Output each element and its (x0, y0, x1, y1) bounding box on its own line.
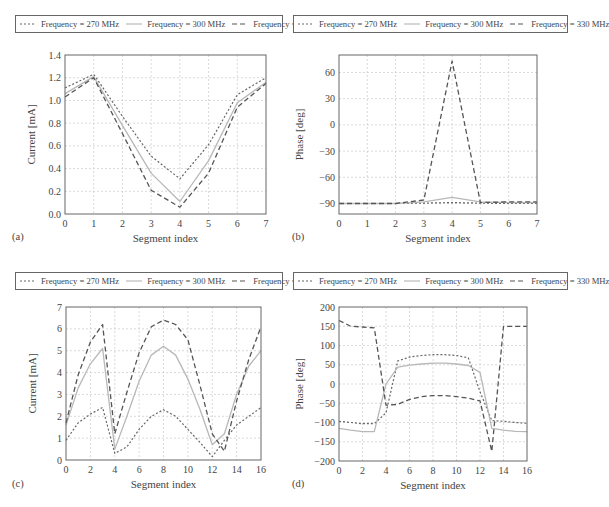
x-tick-label: 2 (120, 218, 125, 229)
x-tick-label: 12 (207, 464, 217, 475)
y-tick-label: 5 (57, 345, 62, 356)
x-tick-label: 5 (478, 218, 483, 229)
y-tick-label: 1.2 (49, 72, 62, 83)
y-axis-label: Phase [deg] (293, 358, 305, 410)
x-axis-label: Segment index (133, 232, 199, 244)
x-tick-label: 14 (499, 465, 509, 476)
x-tick-label: 10 (183, 464, 193, 475)
x-tick-label: 3 (149, 218, 154, 229)
x-tick-label: 2 (393, 218, 398, 229)
chart-a: 012345670.00.20.40.60.81.01.21.4Segment … (12, 50, 269, 245)
y-tick-label: 150 (320, 321, 335, 332)
x-axis-label: Segment index (131, 478, 197, 490)
y-tick-label: 1.4 (49, 50, 62, 61)
y-tick-label: −150 (314, 436, 335, 447)
y-tick-label: 200 (320, 302, 335, 313)
chart-d: 0246810121416−200−150−100−50050100150200… (292, 302, 532, 492)
y-tick-label: 3 (57, 389, 62, 400)
plot-frame (339, 55, 537, 214)
panel-tag: (d) (292, 478, 305, 490)
x-tick-label: 5 (206, 218, 211, 229)
chart-c: 024681012141601234567Segment indexCurren… (12, 302, 266, 491)
x-tick-label: 4 (450, 218, 455, 229)
x-tick-label: 2 (360, 465, 365, 476)
y-tick-label: 30 (325, 93, 335, 104)
x-tick-label: 0 (64, 464, 69, 475)
y-tick-label: 4 (57, 367, 62, 378)
y-tick-label: 0.2 (49, 186, 62, 197)
x-tick-label: 10 (452, 465, 462, 476)
y-tick-label: 0.6 (49, 140, 62, 151)
y-tick-label: 100 (320, 340, 335, 351)
x-tick-label: 6 (235, 218, 240, 229)
panel-tag: (c) (12, 478, 24, 490)
y-tick-label: 0 (330, 379, 335, 390)
y-tick-label: 0.4 (49, 163, 62, 174)
chart-b: 01234567−90−60−3003060Segment indexPhase… (292, 55, 540, 244)
y-tick-label: −30 (319, 146, 335, 157)
x-tick-label: 1 (91, 218, 96, 229)
y-tick-label: 0.8 (49, 118, 62, 129)
x-tick-label: 0 (63, 218, 68, 229)
y-tick-label: −100 (314, 417, 335, 428)
x-tick-label: 7 (264, 218, 269, 229)
y-tick-label: 2 (57, 411, 62, 422)
x-tick-label: 16 (256, 464, 266, 475)
y-tick-label: 6 (57, 323, 62, 334)
y-tick-label: 1 (57, 433, 62, 444)
series-line-330 (339, 61, 537, 203)
x-tick-label: 16 (522, 465, 532, 476)
x-tick-label: 3 (421, 218, 426, 229)
x-tick-label: 7 (535, 218, 540, 229)
x-tick-label: 2 (88, 464, 93, 475)
x-axis-label: Segment index (400, 479, 466, 491)
y-axis-label: Phase [deg] (293, 109, 305, 161)
y-tick-label: 0 (330, 119, 335, 130)
x-tick-label: 8 (161, 464, 166, 475)
x-tick-label: 14 (232, 464, 242, 475)
series-line-300 (66, 346, 261, 449)
x-tick-label: 6 (407, 465, 412, 476)
y-tick-label: 0.0 (49, 209, 62, 220)
y-tick-label: −200 (314, 456, 335, 467)
y-tick-label: 1.0 (49, 95, 62, 106)
x-tick-label: 6 (506, 218, 511, 229)
x-tick-label: 4 (384, 465, 389, 476)
y-tick-label: 7 (57, 302, 62, 313)
y-tick-label: 60 (325, 67, 335, 78)
y-tick-label: −50 (319, 398, 335, 409)
x-tick-label: 1 (365, 218, 370, 229)
series-line-270 (65, 74, 266, 179)
x-tick-label: 6 (137, 464, 142, 475)
y-tick-label: 0 (57, 455, 62, 466)
x-tick-label: 4 (112, 464, 117, 475)
y-tick-label: −60 (319, 172, 335, 183)
series-line-300 (339, 197, 537, 203)
x-tick-label: 4 (177, 218, 182, 229)
panel-tag: (b) (292, 231, 305, 243)
x-axis-label: Segment index (405, 232, 471, 244)
x-tick-label: 12 (475, 465, 485, 476)
panel-tag: (a) (12, 231, 24, 243)
x-tick-label: 0 (337, 218, 342, 229)
y-axis-label: Current [mA] (26, 353, 38, 413)
y-axis-label: Current [mA] (25, 104, 37, 164)
x-tick-label: 8 (431, 465, 436, 476)
y-tick-label: −90 (319, 198, 335, 209)
x-tick-label: 0 (337, 465, 342, 476)
series-line-300 (65, 77, 266, 202)
y-tick-label: 50 (325, 359, 335, 370)
